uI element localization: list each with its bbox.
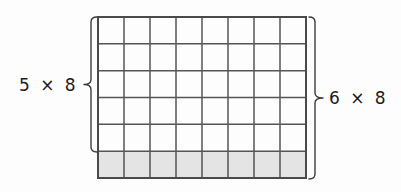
left-expression-label: 5 × 8 <box>19 77 78 94</box>
grid-cell-shaded <box>124 151 150 178</box>
grid-cell-shaded <box>228 151 254 178</box>
grid-cell-shaded <box>254 151 280 178</box>
grid-cell-shaded <box>150 151 176 178</box>
grid-cell-shaded <box>280 151 306 178</box>
left-brace <box>84 17 97 152</box>
grid-cell-shaded <box>202 151 228 178</box>
grid-cell-shaded <box>176 151 202 178</box>
diagram-canvas: 5 × 8 6 × 8 <box>0 0 401 192</box>
right-expression-label: 6 × 8 <box>329 90 388 107</box>
right-brace <box>309 17 323 179</box>
grid-cell-shaded <box>98 151 124 178</box>
